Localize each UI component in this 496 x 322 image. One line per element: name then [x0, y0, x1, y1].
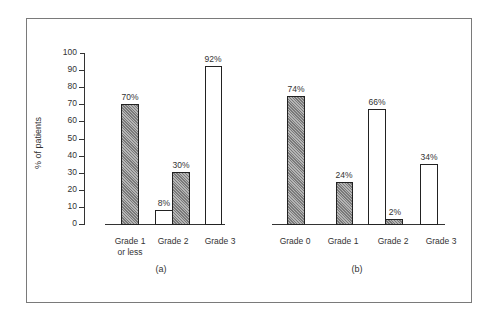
value-label: 92%: [198, 54, 228, 64]
y-tick-label: 90: [57, 64, 77, 74]
y-tick-label: 40: [57, 150, 77, 160]
y-axis: [84, 53, 85, 225]
y-tick: [79, 70, 84, 71]
figure-frame: [26, 18, 472, 303]
y-axis-label: % of patients: [33, 108, 43, 178]
y-tick-label: 100: [57, 47, 77, 57]
y-tick: [79, 190, 84, 191]
category-label: Grade 2: [148, 236, 198, 247]
y-tick-label: 20: [57, 184, 77, 194]
y-tick-label: 70: [57, 98, 77, 108]
y-tick: [79, 207, 84, 208]
bar-a-grade2-open: [155, 210, 173, 225]
value-label: 66%: [362, 97, 392, 107]
value-label: 74%: [281, 84, 311, 94]
value-label: 70%: [115, 92, 145, 102]
bar-b-grade0-hatched: [287, 96, 305, 225]
y-tick: [79, 87, 84, 88]
bar-a-grade3-open: [205, 66, 222, 225]
value-label: 30%: [166, 160, 196, 170]
category-label: Grade 3: [195, 236, 245, 247]
category-label: Grade 2: [368, 236, 418, 247]
category-label: Grade 1: [318, 236, 368, 247]
y-tick: [79, 104, 84, 105]
y-tick: [79, 173, 84, 174]
value-label: 24%: [329, 170, 359, 180]
y-tick: [79, 156, 84, 157]
y-tick: [79, 139, 84, 140]
y-tick: [79, 224, 84, 225]
panel-label-b: (b): [342, 264, 372, 274]
y-tick-label: 30: [57, 167, 77, 177]
y-tick-label: 80: [57, 81, 77, 91]
bar-a-grade2-hatched: [172, 172, 190, 225]
bar-a-grade1-hatched: [121, 104, 139, 225]
value-label: 2%: [380, 207, 410, 217]
category-label: Grade 0: [270, 236, 320, 247]
y-tick-label: 0: [57, 218, 77, 228]
bar-b-grade1-hatched: [336, 182, 353, 225]
y-tick-label: 50: [57, 133, 77, 143]
bar-b-grade3-open: [420, 164, 438, 225]
value-label: 34%: [414, 152, 444, 162]
y-tick-label: 10: [57, 201, 77, 211]
y-tick-label: 60: [57, 115, 77, 125]
panel-label-a: (a): [146, 264, 176, 274]
y-tick: [79, 121, 84, 122]
bar-b-grade2-hatched: [385, 219, 403, 225]
y-tick: [80, 53, 85, 54]
category-label: Grade 3: [416, 236, 466, 247]
